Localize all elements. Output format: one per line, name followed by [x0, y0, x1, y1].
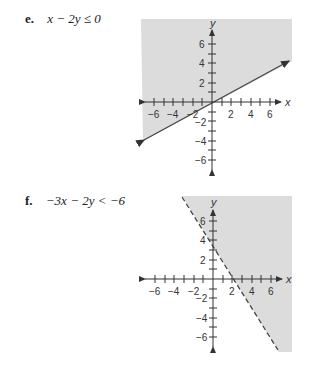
svg-text:6: 6	[268, 286, 274, 297]
svg-text:−4: −4	[196, 313, 208, 324]
svg-text:2: 2	[228, 109, 234, 120]
svg-text:4: 4	[199, 58, 205, 69]
svg-text:2: 2	[200, 255, 206, 266]
x-axis-label-f: x	[285, 273, 292, 285]
svg-text:−2: −2	[196, 293, 208, 304]
x-axis-label-e: x	[284, 96, 291, 108]
svg-text:−6: −6	[149, 286, 161, 297]
svg-text:4: 4	[248, 109, 254, 120]
svg-text:4: 4	[249, 286, 255, 297]
graph-f: x y −6 −4 −2 2 4 6 6 4 2 −2 −4 −6	[145, 196, 292, 352]
svg-text:2: 2	[229, 286, 235, 297]
graphs: x y −6 −4 −2 2 4 6 6 4 2 −2 −4 −6 x y −6…	[0, 0, 311, 371]
svg-text:−6: −6	[196, 332, 208, 343]
graph-e: x y −6 −4 −2 2 4 6 6 4 2 −2 −4 −6	[141, 17, 292, 170]
svg-text:6: 6	[200, 216, 206, 227]
svg-text:4: 4	[200, 235, 206, 246]
svg-text:−4: −4	[195, 136, 207, 147]
svg-text:6: 6	[267, 109, 273, 120]
shaded-region-e	[141, 19, 292, 141]
svg-text:2: 2	[199, 78, 205, 89]
svg-text:−4: −4	[167, 109, 179, 120]
shaded-region-f	[182, 196, 292, 352]
svg-text:−2: −2	[195, 117, 207, 128]
svg-text:−6: −6	[148, 109, 160, 120]
svg-text:−4: −4	[168, 286, 180, 297]
svg-text:−6: −6	[195, 155, 207, 166]
svg-text:6: 6	[199, 39, 205, 50]
